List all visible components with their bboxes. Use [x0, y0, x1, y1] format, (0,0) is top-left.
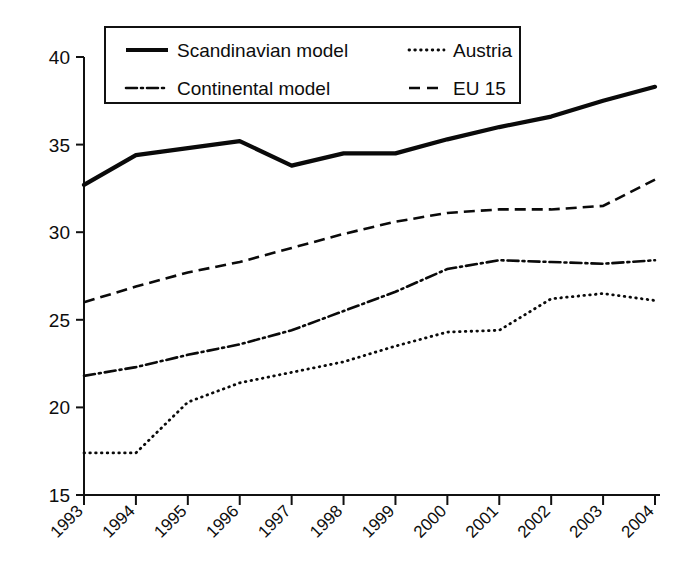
x-tick-label: 1997 [254, 501, 294, 541]
y-tick-label: 30 [49, 222, 70, 243]
x-tick-label: 1994 [99, 501, 139, 541]
x-tick-label: 2004 [618, 501, 658, 541]
x-tick-label: 2002 [514, 501, 554, 541]
chart-svg: 152025303540 199319941995199619971998199… [0, 0, 690, 578]
data-series-group [84, 87, 655, 453]
legend-label-scandinavian-model: Scandinavian model [177, 40, 348, 61]
x-tick-label: 1998 [306, 501, 346, 541]
y-tick-label: 20 [49, 397, 70, 418]
x-tick-label: 1996 [202, 501, 242, 541]
x-tick-label: 1999 [358, 501, 398, 541]
line-chart: 152025303540 199319941995199619971998199… [0, 0, 690, 578]
y-axis-tick-marks [76, 57, 84, 495]
legend-label-eu-15: EU 15 [453, 78, 506, 99]
legend-label-austria: Austria [453, 40, 513, 61]
y-tick-label: 40 [49, 47, 70, 68]
x-tick-label: 2000 [410, 501, 450, 541]
legend: Scandinavian model Austria Continental m… [105, 27, 520, 103]
y-tick-label: 15 [49, 485, 70, 506]
x-tick-label: 2001 [462, 501, 502, 541]
y-tick-label: 35 [49, 135, 70, 156]
x-axis-tick-marks [84, 495, 655, 505]
legend-label-continental-model: Continental model [177, 78, 330, 99]
x-tick-label: 1993 [47, 501, 87, 541]
y-axis-tick-labels: 152025303540 [49, 47, 70, 506]
x-tick-label: 1995 [150, 501, 190, 541]
x-axis-tick-labels: 1993199419951996199719981999200020012002… [47, 501, 658, 541]
series-line-eu-15 [84, 180, 655, 303]
y-tick-label: 25 [49, 310, 70, 331]
x-tick-label: 2003 [566, 501, 606, 541]
series-line-austria [84, 294, 655, 453]
